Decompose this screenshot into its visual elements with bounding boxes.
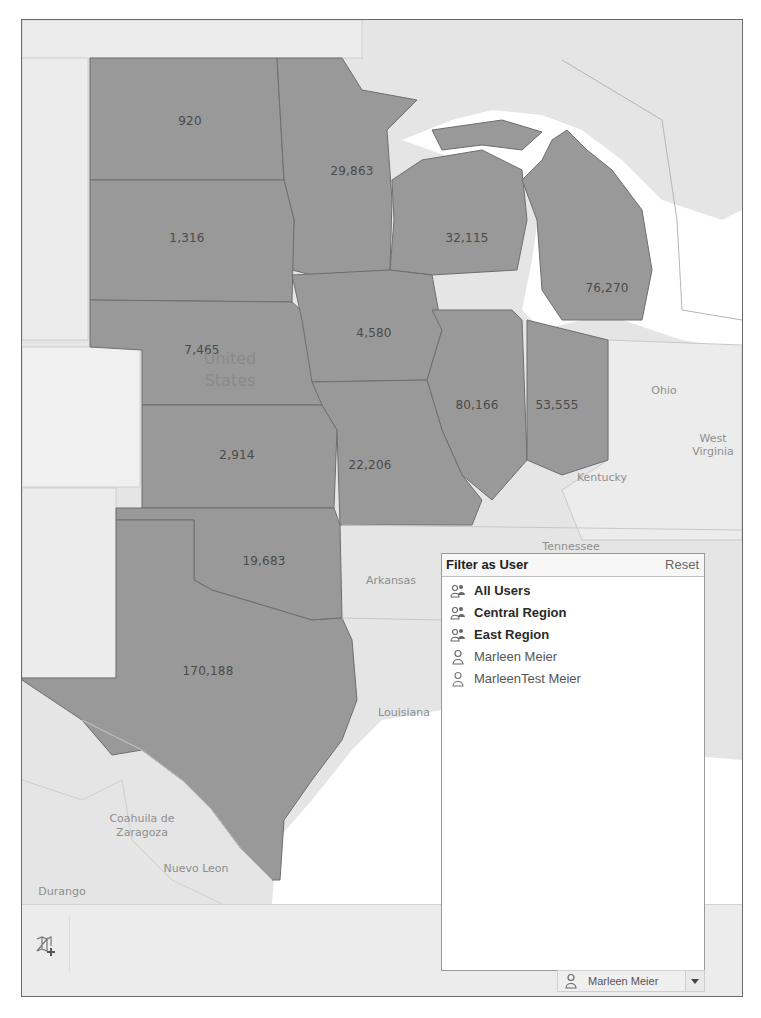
user-option-label: Central Region xyxy=(474,605,566,620)
user-icon xyxy=(450,671,466,687)
user-icon xyxy=(563,973,579,989)
map-plus-icon[interactable] xyxy=(34,935,56,957)
state-value-iowa[interactable]: 4,580 xyxy=(356,326,391,340)
user-icon xyxy=(450,649,466,665)
user-list: All Users Central Region East Region Mar… xyxy=(442,577,704,690)
chevron-down-icon[interactable] xyxy=(685,971,704,991)
region-label-nuevo-leon: Nuevo Leon xyxy=(163,862,228,875)
state-value-oklahoma[interactable]: 19,683 xyxy=(242,554,285,568)
user-option-label: Marleen Meier xyxy=(474,649,557,664)
toolbar-divider xyxy=(69,915,70,973)
state-value-michigan[interactable]: 76,270 xyxy=(585,281,628,295)
region-label-tennessee: Tennessee xyxy=(542,540,599,553)
state-value-indiana[interactable]: 53,555 xyxy=(535,398,578,412)
region-label-west-virginia: West Virginia xyxy=(688,432,738,458)
state-value-texas[interactable]: 170,188 xyxy=(182,664,233,678)
region-label-arkansas: Arkansas xyxy=(366,574,416,587)
popup-title: Filter as User xyxy=(446,557,528,572)
users-group-icon xyxy=(450,583,466,599)
users-group-icon xyxy=(450,605,466,621)
state-value-south-dakota[interactable]: 1,316 xyxy=(169,231,204,245)
user-option-label: East Region xyxy=(474,627,549,642)
region-label-ohio: Ohio xyxy=(651,384,676,397)
region-label-kentucky: Kentucky xyxy=(577,471,627,484)
popup-header: Filter as User Reset xyxy=(442,554,704,577)
user-option-east-region[interactable]: East Region xyxy=(442,624,704,646)
state-value-kansas[interactable]: 2,914 xyxy=(219,448,254,462)
user-option-marleentest-meier[interactable]: MarleenTest Meier xyxy=(442,668,704,690)
user-option-marleen-meier[interactable]: Marleen Meier xyxy=(442,646,704,668)
state-value-wisconsin[interactable]: 32,115 xyxy=(445,231,488,245)
user-option-all-users[interactable]: All Users xyxy=(442,580,704,602)
state-value-minnesota[interactable]: 29,863 xyxy=(330,164,373,178)
state-value-north-dakota[interactable]: 920 xyxy=(178,114,202,128)
dashboard-frame: 920 29,863 1,316 32,115 76,270 7,465 4,5… xyxy=(21,19,743,997)
region-label-louisiana: Louisiana xyxy=(378,706,430,719)
current-user-label: Marleen Meier xyxy=(588,975,658,987)
filter-as-user-popup: Filter as User Reset All Users Central R… xyxy=(441,553,705,971)
reset-button[interactable]: Reset xyxy=(665,557,699,572)
state-value-missouri[interactable]: 22,206 xyxy=(348,458,391,472)
current-user-dropdown[interactable]: Marleen Meier xyxy=(557,970,705,992)
state-value-illinois[interactable]: 80,166 xyxy=(455,398,498,412)
region-label-coahuila: Coahuila de Zaragoza xyxy=(102,812,182,840)
users-group-icon xyxy=(450,627,466,643)
user-option-label: All Users xyxy=(474,583,530,598)
region-label-durango: Durango xyxy=(38,885,85,898)
country-label: United States xyxy=(195,348,265,392)
user-option-central-region[interactable]: Central Region xyxy=(442,602,704,624)
user-option-label: MarleenTest Meier xyxy=(474,671,581,686)
